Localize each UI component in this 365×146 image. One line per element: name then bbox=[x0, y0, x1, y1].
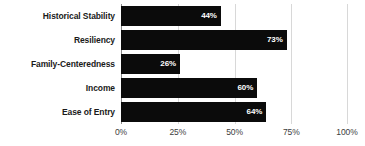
category-label-resiliency: Resiliency bbox=[74, 36, 115, 45]
xtick-label-100: 100% bbox=[336, 128, 357, 137]
bar-historical-stability: 44% bbox=[121, 6, 221, 26]
bar-row: 44% bbox=[121, 4, 348, 28]
value-axis: 0% 25% 50% 75% 100% bbox=[121, 128, 348, 142]
category-row: Family-Centeredness bbox=[0, 52, 115, 76]
xtick-label-75: 75% bbox=[283, 128, 300, 137]
bar-value-historical-stability: 44% bbox=[201, 12, 221, 20]
xtick-label-50: 50% bbox=[226, 128, 243, 137]
category-label-historical-stability: Historical Stability bbox=[43, 12, 115, 21]
xtick-label-25: 25% bbox=[169, 128, 186, 137]
bar-family-centeredness: 26% bbox=[121, 54, 180, 74]
category-axis: Historical Stability Resiliency Family-C… bbox=[0, 4, 115, 124]
bar-ease-of-entry: 64% bbox=[121, 102, 266, 122]
bar-resiliency: 73% bbox=[121, 30, 287, 50]
xtick-label-0: 0% bbox=[115, 128, 127, 137]
category-row: Resiliency bbox=[0, 28, 115, 52]
bars-layer: 44% 73% 26% 60% 64% bbox=[121, 4, 348, 124]
category-label-family-centeredness: Family-Centeredness bbox=[31, 60, 115, 69]
bar-chart: Historical Stability Resiliency Family-C… bbox=[0, 0, 365, 146]
bar-row: 26% bbox=[121, 52, 348, 76]
category-row: Historical Stability bbox=[0, 4, 115, 28]
bar-value-family-centeredness: 26% bbox=[160, 60, 180, 68]
category-row: Income bbox=[0, 76, 115, 100]
bar-row: 60% bbox=[121, 76, 348, 100]
bar-row: 64% bbox=[121, 100, 348, 124]
bar-value-ease-of-entry: 64% bbox=[247, 108, 267, 116]
bar-value-income: 60% bbox=[237, 84, 257, 92]
category-label-ease-of-entry: Ease of Entry bbox=[62, 108, 115, 117]
bar-income: 60% bbox=[121, 78, 257, 98]
category-row: Ease of Entry bbox=[0, 100, 115, 124]
bar-row: 73% bbox=[121, 28, 348, 52]
bar-value-resiliency: 73% bbox=[267, 36, 287, 44]
category-label-income: Income bbox=[86, 84, 115, 93]
